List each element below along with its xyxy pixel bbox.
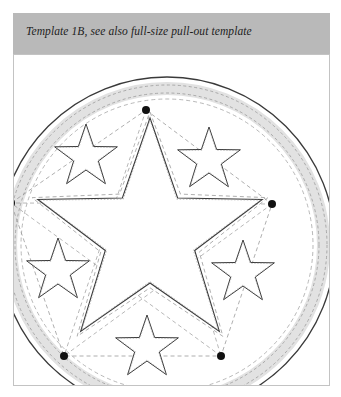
dashed-construction-pentagon (13, 110, 272, 356)
dot-right (268, 200, 276, 208)
medallion-ring-dashed-outer (13, 85, 327, 386)
template-artwork (13, 54, 330, 386)
star-upper-right-stitch-line (179, 129, 239, 186)
center-large-star (38, 118, 262, 331)
construction-diagonal (146, 110, 221, 356)
construction-diagonal (13, 203, 221, 356)
construction-diagonal (64, 110, 146, 356)
star-right-stitch-line (213, 242, 273, 299)
star-bottom (116, 315, 179, 375)
medallion-outer-circle (13, 77, 330, 386)
star-upper-left (55, 124, 118, 184)
star-left-stitch-line (28, 240, 88, 297)
construction-diagonal (13, 203, 272, 204)
star-upper-left-stitch-line (56, 126, 116, 183)
center-star-stitch-line (40, 120, 261, 330)
medallion-ring-dashed-inner (15, 93, 319, 386)
dot-left (13, 199, 15, 207)
dot-top (142, 106, 150, 114)
dot-bottom-right (217, 352, 225, 360)
caption-bar: Template 1B, see also full-size pull-out… (13, 13, 330, 54)
medallion-ring-band (13, 89, 324, 387)
dot-bottom-left (60, 352, 68, 360)
caption-text: Template 1B, see also full-size pull-out… (26, 25, 252, 37)
construction-diagonal (64, 204, 272, 356)
artwork-group (13, 77, 330, 386)
template-page: Template 1B, see also full-size pull-out… (0, 0, 341, 397)
center-star-seam-guide (32, 112, 268, 336)
star-upper-right (178, 127, 241, 187)
star-left (27, 238, 90, 298)
template-drawing-plate (13, 54, 330, 386)
medallion-inner-dashed-circle (21, 99, 313, 386)
star-bottom-stitch-line (117, 317, 177, 374)
star-right (212, 240, 275, 300)
